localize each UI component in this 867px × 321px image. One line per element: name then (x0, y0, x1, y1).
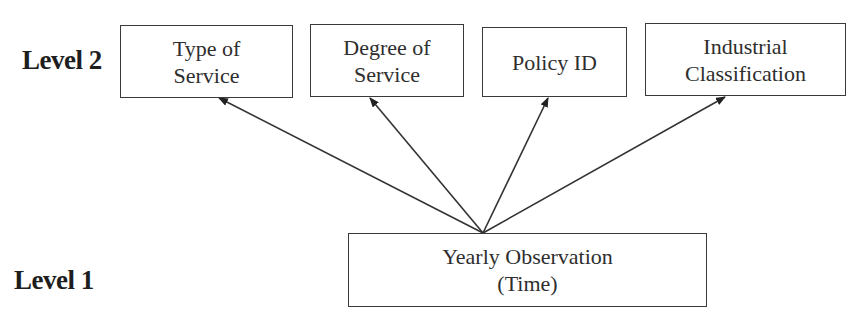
node-industrial-classification: Industrial Classification (645, 23, 846, 96)
node-label-line1: Degree of (343, 34, 430, 61)
node-label-line2: Service (174, 62, 240, 89)
node-label-line1: Yearly Observation (442, 243, 613, 270)
node-label-line2: (Time) (497, 270, 557, 297)
node-degree-of-service: Degree of Service (310, 24, 464, 97)
arrow-to-industrial-classification (483, 97, 725, 233)
level-2-label: Level 2 (22, 45, 102, 76)
node-label-line1: Industrial (703, 33, 787, 60)
node-label-line1: Type of (173, 35, 241, 62)
node-policy-id: Policy ID (482, 27, 627, 97)
node-yearly-observation: Yearly Observation (Time) (348, 233, 707, 307)
arrow-to-type-of-service (219, 98, 483, 233)
node-type-of-service: Type of Service (120, 25, 293, 98)
node-label-line1: Policy ID (512, 49, 597, 76)
level-1-label: Level 1 (14, 265, 94, 296)
arrow-to-degree-of-service (370, 98, 483, 233)
node-label-line2: Service (354, 61, 420, 88)
arrow-to-policy-id (483, 98, 548, 233)
node-label-line2: Classification (685, 60, 806, 87)
